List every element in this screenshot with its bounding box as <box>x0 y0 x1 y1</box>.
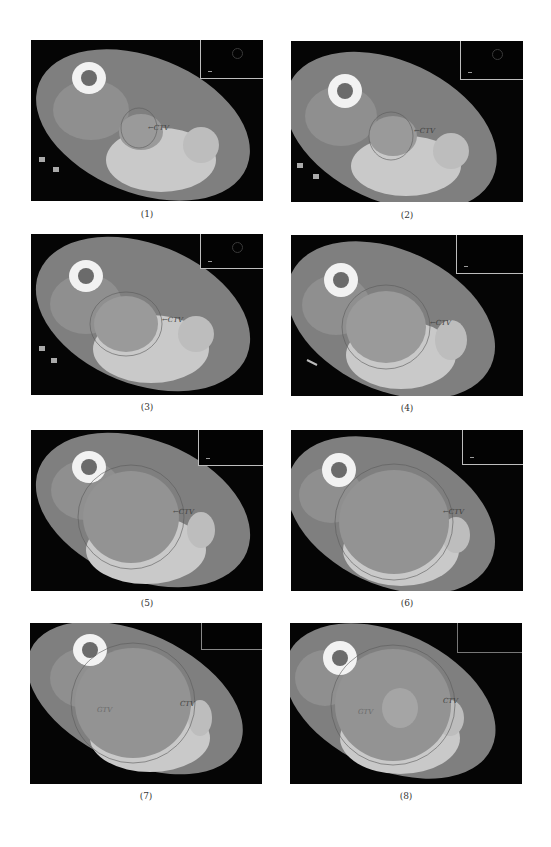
ctv-annotation: ←CTV <box>162 316 183 324</box>
scout-inset <box>457 623 522 653</box>
ct-panel-6: ←CTV <box>291 430 523 591</box>
panel-caption: (3) <box>31 402 263 412</box>
gtv-annotation: GTV <box>97 706 112 714</box>
scout-inset <box>460 41 523 80</box>
scout-inset <box>201 623 262 650</box>
scout-inset <box>456 235 523 274</box>
ctv-annotation: ←CTV <box>173 508 194 516</box>
panel-caption: (6) <box>291 598 523 608</box>
ctv-annotation: ←CTV <box>148 124 169 132</box>
ctv-annotation: ←CTV <box>430 319 451 327</box>
inset-arrow-icon <box>468 72 472 73</box>
ct-panel-8: CTV GTV <box>290 623 522 784</box>
inset-arrow-icon <box>208 71 212 72</box>
panel-caption: (5) <box>31 598 263 608</box>
scout-inset <box>198 430 263 466</box>
ct-panel-4: ←CTV <box>291 235 523 396</box>
panel-caption: (2) <box>291 210 523 220</box>
ct-panel-2: ←CTV <box>291 41 523 202</box>
ctv-annotation: ←CTV <box>443 508 464 516</box>
panel-caption: (1) <box>31 209 263 219</box>
inset-marker-icon <box>232 242 243 253</box>
inset-marker-icon <box>232 48 243 59</box>
gtv-annotation: GTV <box>358 708 373 716</box>
scout-inset <box>200 40 263 79</box>
panel-caption: (4) <box>291 403 523 413</box>
inset-arrow-icon <box>208 261 212 262</box>
ctv-annotation: CTV <box>443 697 458 705</box>
inset-marker-icon <box>492 49 503 60</box>
panel-caption: (7) <box>30 791 262 801</box>
inset-arrow-icon <box>464 266 468 267</box>
ctv-annotation: CTV <box>180 700 195 708</box>
scout-inset <box>200 234 263 269</box>
inset-arrow-icon <box>470 457 474 458</box>
ct-panel-5: ←CTV <box>31 430 263 591</box>
ct-panel-7: CTV GTV <box>30 623 262 784</box>
ctv-annotation: ←CTV <box>414 127 435 135</box>
panel-caption: (8) <box>290 791 522 801</box>
inset-arrow-icon <box>206 458 210 459</box>
scout-inset <box>462 430 523 465</box>
ct-panel-1: ←CTV <box>31 40 263 201</box>
ct-panel-3: ←CTV <box>31 234 263 395</box>
